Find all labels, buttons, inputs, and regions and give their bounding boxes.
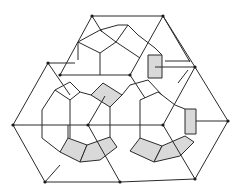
shaded-square-right — [185, 109, 196, 134]
framework-diagram — [0, 0, 243, 191]
frame-lines — [13, 16, 228, 182]
shaded-face-bl2 — [80, 137, 117, 162]
shaded-face-br2 — [154, 136, 194, 162]
shaded-face-center — [91, 83, 122, 107]
outer-frame — [13, 16, 228, 182]
nodes — [11, 14, 229, 183]
